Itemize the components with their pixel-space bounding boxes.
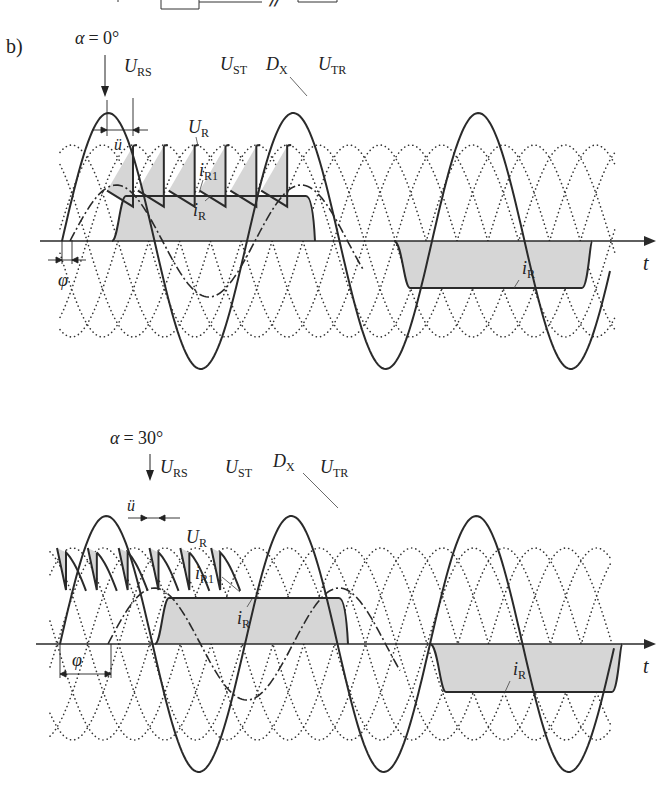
label-d-x: DX bbox=[265, 54, 288, 77]
phase-shift-dimension bbox=[48, 240, 86, 264]
label-d-x: DX bbox=[272, 451, 295, 474]
label-u-st: UST bbox=[225, 457, 253, 480]
panel-alpha-0: t α= 0° URS UST DX UTR UR iR1 iR iR ü bbox=[40, 28, 656, 369]
svg-text:/ /: / / bbox=[269, 0, 279, 8]
alpha-label: α= 0° bbox=[75, 28, 119, 48]
time-axis-label: t bbox=[643, 252, 649, 274]
label-u-st: UST bbox=[220, 54, 248, 77]
axis-arrow-icon bbox=[644, 236, 656, 246]
part-label: b) bbox=[6, 35, 23, 58]
label-u-rs: URS bbox=[124, 56, 152, 79]
axis-arrow-icon bbox=[644, 639, 656, 649]
label-phi: φ bbox=[58, 270, 68, 290]
alpha-label: α= 30° bbox=[110, 428, 163, 448]
arrow-down-icon bbox=[146, 470, 154, 481]
label-u-r: UR bbox=[188, 117, 209, 140]
label-phi: φ bbox=[72, 650, 82, 670]
label-overlap: ü bbox=[127, 497, 135, 514]
label-u-r: UR bbox=[186, 527, 207, 550]
phase-shift-dimension bbox=[60, 644, 111, 678]
panel-alpha-30: t α= 30° URS UST DX UTR UR iR1 iR iR ü φ bbox=[36, 428, 656, 772]
label-i-r1: iR1 bbox=[195, 563, 214, 586]
label-i-r1: iR1 bbox=[199, 160, 218, 183]
overlap-dimension bbox=[128, 515, 180, 521]
circuit-remnant: / / bbox=[118, 0, 337, 9]
label-u-tr: UTR bbox=[318, 54, 346, 77]
arrow-down-icon bbox=[101, 86, 109, 97]
thyristor-converter-waveform-diagram: / / b) t α= 0° URS UST DX UTR UR iR1 iR … bbox=[0, 0, 658, 810]
time-axis-label: t bbox=[643, 655, 649, 677]
label-u-tr: UTR bbox=[320, 457, 348, 480]
label-overlap: ü bbox=[114, 136, 122, 153]
label-u-rs: URS bbox=[160, 457, 188, 480]
